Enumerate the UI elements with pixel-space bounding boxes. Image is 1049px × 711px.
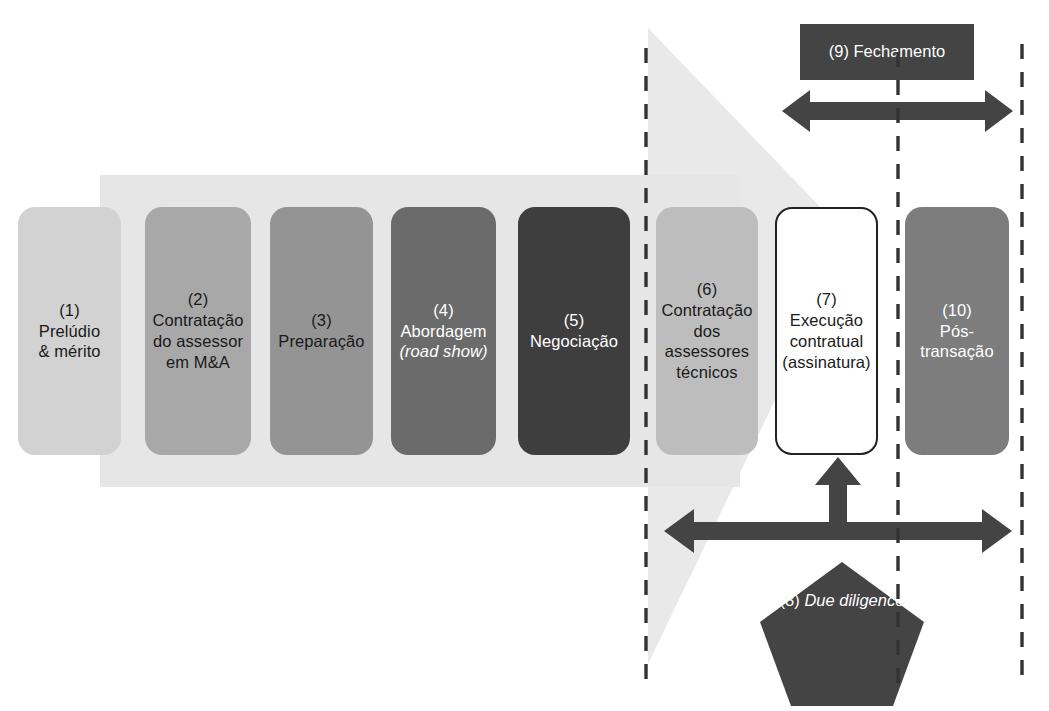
divider-lines-layer [0,0,1049,711]
diagram-canvas: (1) Prelúdio & mérito (2) Contratação do… [0,0,1049,711]
